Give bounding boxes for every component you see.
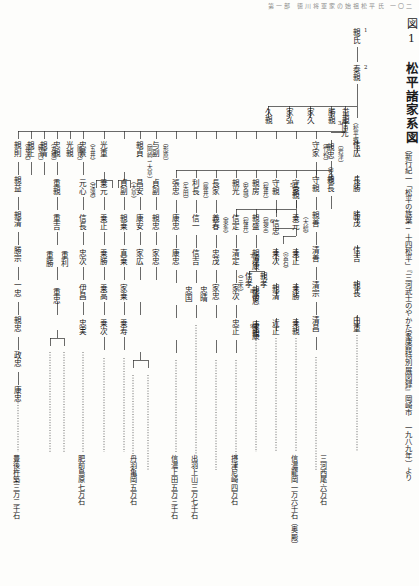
fief-label-mikawa-nishio: 三河西尾六万石 [320, 455, 327, 505]
node-nogi-3: 重勝 [45, 251, 53, 267]
node-takeya-6: 清昌 [311, 316, 319, 332]
node-main-6: 信忠 [271, 219, 279, 235]
node-ogyu-2: 乗正 [291, 249, 299, 265]
node-okazaki-3: 家広 [135, 249, 143, 265]
branch-label-nogi: 〔能見〕 [76, 140, 82, 164]
node-nagasawa-8: 康忠 [13, 386, 21, 402]
node-matsudairago-6: 由重 [352, 316, 360, 332]
node-ogusa-3: 真乗 [119, 249, 127, 265]
node-takeya-3: 親善 [311, 211, 319, 227]
generation-number-2: 2 [364, 64, 367, 70]
node-miyaishi-2: 親清 [271, 284, 279, 300]
node-ogusa-1: 貞副 [119, 179, 127, 195]
node-iwatsu-1: 親長 [326, 176, 334, 192]
branch-label-katahara: 〔形原〕 [162, 140, 168, 164]
branch-label-okazaki: 〔岡崎→大草〕 [146, 140, 152, 182]
node-main-2: 泰親 [352, 65, 360, 81]
node-miyaishi-3: 近正 [271, 319, 279, 335]
figure-title-block: 図1 松平諸家系図 （新行紀一「松平の族葉─十四松平」『三河武士のやかた家康館特… [404, 18, 417, 578]
branch-label-fujii: 〔藤井〕 [202, 178, 208, 202]
node-main-1: 親氏 [352, 28, 360, 44]
node-takeya-1: 守家 [311, 141, 319, 157]
node-okazaki-0: 親貞 [135, 141, 143, 157]
node-tojo-2: 忠茂 [211, 249, 219, 265]
branch-label-anjo-b: （安城） [242, 178, 248, 202]
fief-label-bungo-kitsuki: 豊後杵築三万二千石 [13, 455, 20, 519]
fief-label-dewa-kaminoyama: 出羽上山三万七千石 [191, 455, 198, 519]
node-nagasawa-3: 親清 [13, 211, 21, 227]
node-fujii-3: 忠国 [184, 286, 192, 302]
node-ogusa-2: 親乗 [119, 214, 127, 230]
fief-label-shinano-ueda: 信濃上田五万三千石 [171, 455, 178, 519]
node-ogyu-4: 乗親 [291, 319, 299, 335]
node-yada-2: 康忠 [171, 214, 179, 230]
node-yada-3: 康忠 [171, 249, 179, 265]
node-ogyu-0: 守家 [291, 179, 299, 195]
figure-name: 松平諸家系図 [404, 62, 417, 145]
node-tojo-0: 長家 [211, 179, 219, 195]
node-fujii-1: 信一 [191, 214, 199, 230]
fief-label-tanba-kameoka: 丹羽亀岡五万石 [130, 455, 137, 505]
node-nagasawa-4: 勝宗 [13, 246, 21, 262]
branch-label-ogyu: （大給） [302, 213, 308, 237]
node-fukama-2: 親次 [251, 249, 259, 265]
node-gojo-1: 元心 [78, 179, 86, 195]
node-sakurai-1: 信定 [231, 214, 239, 230]
node-miki-1: 信孝 [244, 272, 252, 288]
node-mitsuchika-1: 乗元 [99, 179, 107, 195]
node-matsudairago-2: 長勝 [352, 176, 360, 192]
node-top-iehiro: 家弘 [285, 108, 293, 124]
node-miyaishi-0: 守親 [271, 179, 279, 195]
node-katahara-3: 家忠 [151, 249, 159, 265]
node-nagasawa-1: 親則 [13, 141, 21, 157]
node-gojo-5: 忠実 [78, 319, 86, 335]
node-top-hisachika: 久親 [264, 108, 272, 124]
node-nagasawa-6: 親忠 [13, 316, 21, 332]
branch-label-tojo: （東条） [222, 213, 228, 237]
node-katahara-2: 親忠 [151, 214, 159, 230]
branch-label-fukozu: （深溝） [89, 178, 95, 202]
branch-label-takeya: 〔竹谷〕 [322, 140, 328, 164]
node-sakurai-2: 清定 [231, 249, 239, 265]
node-nogi-5: 重忠 [52, 288, 60, 304]
branch-label-iwatsu: 〔岩津〕 [337, 142, 343, 166]
node-takeya-5: 清宗 [311, 281, 319, 297]
node-yada-1: 張忠 [171, 179, 179, 195]
node-nagasawa-2: 親益 [13, 176, 21, 192]
branch-label-fukama: 〔福釜〕 [262, 213, 268, 237]
node-gojo-4: 伊昌 [78, 284, 86, 300]
node-fujii-0: 利長 [191, 179, 199, 195]
node-top-masuchika: 益親 [341, 108, 349, 124]
branch-label-makiuchi: 〔牧内〕 [37, 140, 43, 164]
figure-number: 図1 [406, 18, 417, 62]
node-fukama-0: 親房 [251, 179, 259, 195]
node-nogi-2: 重吉 [52, 214, 60, 230]
branch-label-yada: 〔矢田〕 [182, 178, 188, 202]
node-nagasawa-7: 政忠 [13, 351, 21, 367]
node-sakurai-0: 親光 [231, 179, 239, 195]
branch-label-sakurai: 〔桜井〕 [242, 213, 248, 237]
node-top-katsuchika: 勝親 [327, 108, 335, 124]
branch-label-miyaishi: （宮石） [282, 248, 288, 272]
node-gojo-2: 信長 [78, 214, 86, 230]
node-nagasawa-5: 一忠 [13, 281, 21, 297]
node-miki-2: 親孝 [259, 272, 267, 288]
node-fukama-1: 親盛 [251, 214, 259, 230]
node-fujii-2: 信吉 [191, 249, 199, 265]
node-fukozu-0: 光親 [65, 141, 73, 157]
node-sakurai-3: 家次 [231, 284, 239, 300]
figure-page: 第一部 徳川将軍家の始祖松平氏 一〇二 [0, 0, 419, 586]
node-matsudairago-4: 信吉 [352, 246, 360, 262]
node-tojo-1: 義春 [211, 214, 219, 230]
node-ogyu-3: 乗勝 [291, 284, 299, 300]
node-ogusa-4: 家乗 [119, 284, 127, 300]
node-mitsushige: 光重 [99, 141, 107, 157]
branch-label-ogusa: （大草） [130, 178, 136, 202]
figure-source: （新行紀一「松平の族葉─十四松平」『三河武士のやかた家康館特別展図録』岡崎市 一… [404, 145, 411, 480]
node-miyaishi-1: 乗次 [271, 249, 279, 265]
node-matsudairago-1: 信広 [352, 141, 360, 157]
node-mitsuchika-3: 乗勝 [99, 249, 107, 265]
branch-label-gojo: （五井） [89, 140, 95, 164]
branch-label-nagasawa: 〔長沢〕 [24, 140, 30, 164]
node-tojo-3: 家忠 [211, 284, 219, 300]
